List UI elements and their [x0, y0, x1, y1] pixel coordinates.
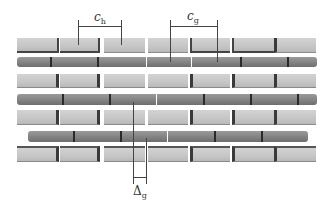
brick-block — [17, 38, 59, 53]
brick-block — [232, 110, 274, 125]
rod-joint — [297, 94, 299, 105]
rod-segment — [28, 131, 308, 142]
brick-block — [104, 146, 145, 162]
brick-block — [148, 38, 188, 53]
brick-block — [104, 38, 145, 53]
brick-block — [60, 74, 100, 88]
rod-joint — [73, 131, 75, 142]
brick-block — [274, 146, 316, 162]
brick-block — [17, 74, 59, 88]
brick-rod-diagram: ch cg Δg — [0, 0, 329, 205]
brick-block — [274, 110, 316, 125]
brick-block — [60, 38, 100, 53]
brick-block — [232, 146, 274, 162]
rod-segment — [17, 57, 317, 67]
brick-block — [232, 74, 274, 88]
rod-joint — [250, 94, 252, 105]
rod-joint — [97, 57, 99, 67]
rod-joint — [167, 131, 168, 142]
brick-block — [190, 74, 230, 88]
rod-joint — [146, 57, 147, 67]
brick-block — [104, 110, 145, 125]
rod-joint — [191, 57, 192, 67]
rod-joint — [287, 57, 289, 67]
rod-joint — [62, 94, 64, 105]
label-cg: cg — [187, 10, 199, 25]
rod-joint — [203, 94, 205, 105]
rod-joint — [156, 94, 157, 105]
brick-block — [274, 38, 316, 53]
brick-block — [17, 146, 59, 162]
brick-block — [60, 146, 100, 162]
brick-block — [274, 74, 316, 88]
brick-block — [190, 110, 230, 125]
brick-block — [148, 146, 188, 162]
rod-segment — [17, 94, 317, 105]
brick-block — [232, 38, 274, 53]
rod-joint — [50, 57, 52, 67]
rod-joint — [214, 131, 216, 142]
brick-block — [104, 74, 145, 88]
brick-block — [190, 38, 230, 53]
brick-block — [190, 146, 230, 162]
label-delta-g: Δg — [133, 185, 147, 200]
rod-joint — [240, 57, 242, 67]
brick-block — [148, 110, 188, 125]
brick-block — [148, 74, 188, 88]
rod-joint — [261, 131, 263, 142]
label-ch: ch — [94, 11, 106, 26]
rod-joint — [109, 94, 111, 105]
brick-block — [60, 110, 100, 125]
brick-block — [17, 110, 59, 125]
rod-joint — [120, 131, 122, 142]
